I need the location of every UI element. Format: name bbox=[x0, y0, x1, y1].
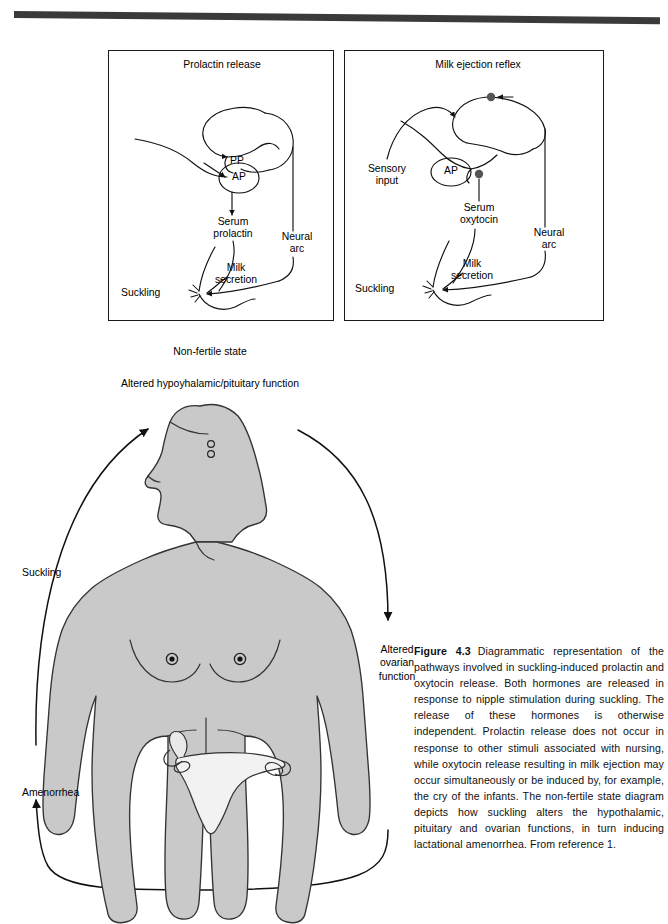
label-sensory-input: Sensory input bbox=[351, 163, 423, 188]
label-amenorrhea: Amenorrhea bbox=[22, 786, 112, 799]
label-ap-prolactin: AP bbox=[227, 171, 251, 183]
label-serum-oxytocin: Serum oxytocin bbox=[443, 202, 515, 227]
panel-prolactin-release: Prolactin release PP AP Serum prolactin … bbox=[108, 50, 334, 321]
label-suckling-prolactin: Suckling bbox=[121, 287, 187, 299]
label-serum-prolactin: Serum prolactin bbox=[197, 216, 269, 241]
panel-milk-ejection-title: Milk ejection reflex bbox=[403, 59, 553, 71]
label-neural-arc-oxytocin: Neural arc bbox=[525, 227, 573, 252]
figure-page: Prolactin release PP AP Serum prolactin … bbox=[0, 0, 668, 924]
label-ap-oxytocin: AP bbox=[439, 165, 463, 177]
panel-milk-ejection-reflex: Milk ejection reflex Sensory input AP Se… bbox=[344, 50, 604, 321]
label-neural-arc-prolactin: Neural arc bbox=[273, 231, 321, 256]
label-suckling-cycle: Suckling bbox=[22, 566, 102, 579]
figure-number: Figure 4.3 bbox=[414, 645, 471, 657]
label-milk-secretion-oxytocin: Milk secretion bbox=[441, 258, 503, 283]
page-header-rule bbox=[14, 11, 660, 24]
figure-caption: Figure 4.3Diagrammatic representation of… bbox=[414, 643, 664, 852]
label-suckling-oxytocin: Suckling bbox=[355, 283, 421, 295]
panel-prolactin-title: Prolactin release bbox=[152, 59, 292, 71]
non-fertile-state-diagram bbox=[0, 330, 420, 924]
label-pp: PP bbox=[225, 155, 249, 167]
label-milk-secretion-prolactin: Milk secretion bbox=[205, 262, 267, 287]
figure-caption-text: Diagrammatic representation of the pathw… bbox=[414, 645, 664, 850]
female-body-cycle-drawing bbox=[0, 330, 420, 924]
